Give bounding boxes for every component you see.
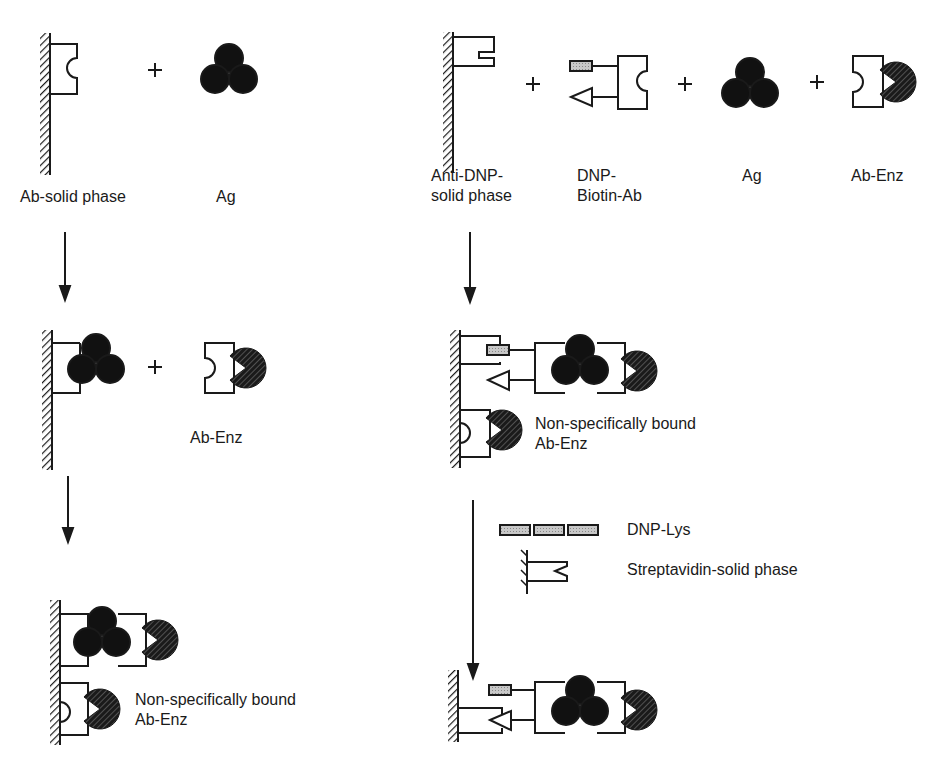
arrow-down-icon [63,476,73,542]
dnp-lys-icon [500,525,598,535]
ab-enz-icon [853,56,916,107]
arrow-down-icon [60,232,70,300]
arrow-down-icon [465,232,475,302]
arrow-down-icon [468,500,478,678]
label-nonspecific-line1: Non-specifically bound [135,690,296,710]
label-streptavidin: Streptavidin-solid phase [627,560,798,580]
antigen-icon [201,44,257,93]
plus-icon [526,77,540,91]
ab-enz-icon [205,343,266,393]
label-anti-dnp-line2: solid phase [431,186,512,206]
dnp-biotin-ab-icon [570,56,647,109]
transferred-complex-icon [448,670,657,742]
label-ab-enz: Ab-Enz [190,428,242,448]
plus-icon [148,360,162,374]
ab-solid-phase-icon [40,33,77,175]
plus-icon [148,63,162,77]
label-ab-enz-right: Ab-Enz [851,166,903,186]
label-ab-solid-phase: Ab-solid phase [20,187,126,207]
immunoassay-diagram [0,0,951,767]
label-ag: Ag [216,187,236,207]
ab-solid-phase-bound-ag-icon [42,330,124,470]
plus-icon [678,77,692,91]
label-dnp-biotin-line2: Biotin-Ab [577,186,642,206]
label-dnp-lys: DNP-Lys [627,520,690,540]
label-anti-dnp-line1: Anti-DNP- [431,166,503,186]
antigen-icon [722,58,778,107]
label-dnp-biotin-line1: DNP- [577,166,616,186]
plus-icon [810,75,824,89]
label-ag-right: Ag [742,166,762,186]
streptavidin-solid-phase-icon [521,550,567,594]
anti-dnp-solid-phase-icon [443,32,494,172]
label-nonspecific-right-line1: Non-specifically bound [535,414,696,434]
label-nonspecific-line2: Ab-Enz [135,710,187,730]
label-nonspecific-right-line2: Ab-Enz [535,434,587,454]
